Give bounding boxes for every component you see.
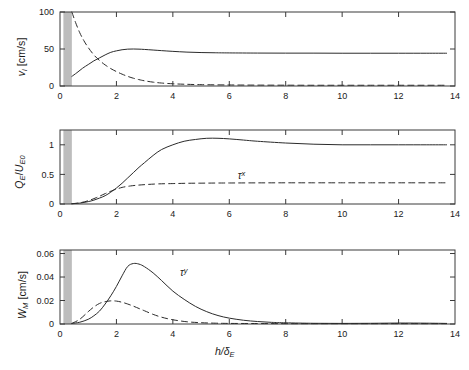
ylabel3-sub: M	[21, 303, 30, 309]
svg-text:6: 6	[227, 91, 232, 101]
svg-text:4: 4	[170, 209, 175, 219]
plot-area-panel1: 02468101214050100	[0, 0, 469, 115]
svg-text:0.02: 0.02	[36, 296, 54, 306]
svg-text:14: 14	[450, 329, 460, 339]
svg-text:100: 100	[39, 7, 54, 17]
svg-text:1: 1	[49, 140, 54, 150]
svg-text:10: 10	[337, 209, 347, 219]
ylabel2-slash: /	[13, 172, 25, 175]
svg-text:0: 0	[57, 209, 62, 219]
figure-container: vl [cm/s] 02468101214050100 QE/UE0 τx 02…	[0, 0, 469, 370]
y-axis-label-panel1: vl [cm/s]	[15, 17, 29, 97]
svg-text:12: 12	[394, 209, 404, 219]
ylabel1-sub: l	[20, 69, 29, 71]
svg-text:10: 10	[337, 91, 347, 101]
ylabel2-u-sub: E0	[18, 155, 27, 164]
ylabel1-unit: [cm/s]	[15, 38, 27, 70]
xlabel-main: h/δ	[215, 345, 230, 357]
x-axis-label: h/δE	[215, 345, 235, 359]
svg-text:12: 12	[394, 329, 404, 339]
svg-text:8: 8	[283, 91, 288, 101]
ylabel1-main: v	[15, 71, 27, 76]
panel-velocity: vl [cm/s] 02468101214050100	[0, 0, 469, 115]
svg-text:4: 4	[170, 91, 175, 101]
ylabel3-main: W	[16, 309, 28, 319]
svg-text:4: 4	[170, 329, 175, 339]
svg-text:0: 0	[49, 81, 54, 91]
panel-transport: QE/UE0 τx 0246810121400.51	[0, 118, 469, 233]
svg-text:14: 14	[450, 209, 460, 219]
xlabel-sub: E	[230, 350, 235, 359]
svg-text:0: 0	[49, 319, 54, 329]
svg-text:14: 14	[450, 91, 460, 101]
plot-area-panel2: 0246810121400.51	[0, 118, 469, 233]
svg-text:8: 8	[283, 329, 288, 339]
svg-text:12: 12	[394, 91, 404, 101]
y-axis-label-panel2: QE/UE0	[13, 132, 27, 212]
ylabel2-q: Q	[13, 180, 25, 188]
tau-x-superscript: x	[242, 169, 246, 178]
ylabel3-unit: [cm/s]	[16, 271, 28, 303]
y-axis-label-panel3: WM [cm/s]	[16, 250, 30, 340]
svg-text:2: 2	[114, 209, 119, 219]
tau-y-annotation: τy	[180, 266, 188, 278]
svg-text:0: 0	[49, 199, 54, 209]
panel-vertical-velocity: WM [cm/s] τy 0246810121400.020.040.06	[0, 238, 469, 353]
svg-text:2: 2	[114, 329, 119, 339]
plot-area-panel3: 0246810121400.020.040.06	[0, 238, 469, 353]
svg-text:0.5: 0.5	[41, 170, 54, 180]
svg-text:50: 50	[44, 44, 54, 54]
svg-text:6: 6	[227, 329, 232, 339]
svg-text:0.04: 0.04	[36, 272, 54, 282]
svg-text:0: 0	[57, 329, 62, 339]
svg-text:6: 6	[227, 209, 232, 219]
tau-y-superscript: y	[184, 266, 188, 275]
tau-x-annotation: τx	[238, 169, 246, 181]
svg-text:2: 2	[114, 91, 119, 101]
ylabel2-q-sub: E	[18, 175, 27, 180]
svg-text:0.06: 0.06	[36, 249, 54, 259]
svg-text:10: 10	[337, 329, 347, 339]
ylabel2-u: U	[13, 165, 25, 173]
svg-text:8: 8	[283, 209, 288, 219]
svg-text:0: 0	[57, 91, 62, 101]
